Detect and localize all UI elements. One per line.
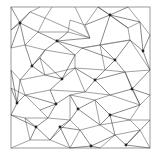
spoke-edge	[20, 23, 38, 32]
cell-edge	[125, 70, 150, 72]
cell-edge	[100, 45, 105, 70]
spoke-edge	[125, 72, 132, 89]
spoke-edge	[100, 15, 110, 45]
cell-edge	[130, 120, 140, 130]
cell-edge	[70, 95, 95, 100]
cell-edge	[75, 68, 85, 92]
mesh-diagram	[0, 0, 157, 157]
cell-edge	[50, 120, 70, 140]
spoke-edge	[57, 32, 68, 41]
cell-edge	[45, 50, 75, 55]
graph-node	[19, 22, 22, 25]
graph-node	[35, 126, 38, 129]
spoke-edge	[11, 103, 17, 115]
spoke-edge	[143, 35, 150, 51]
spoke-edge	[110, 7, 128, 15]
cell-edge	[68, 20, 70, 32]
spoke-edge	[95, 80, 110, 95]
cell-edge	[30, 7, 40, 12]
spoke-edge	[50, 79, 62, 90]
spoke-edge	[50, 127, 60, 140]
spoke-edge	[20, 12, 30, 23]
spoke-edge	[115, 135, 126, 145]
graph-node	[56, 40, 59, 43]
cell-edge	[25, 45, 45, 50]
graph-node	[125, 144, 128, 147]
cell-edge	[30, 12, 45, 18]
spoke-edge	[98, 7, 110, 15]
spoke-edge	[60, 120, 70, 127]
cell-edge	[48, 118, 70, 120]
cell-edge	[128, 28, 130, 40]
graph-node	[109, 14, 112, 17]
cell-edge	[95, 100, 100, 125]
spoke-edge	[20, 23, 25, 45]
spoke-edge	[17, 95, 25, 103]
spoke-edge	[48, 104, 56, 118]
spoke-edge	[105, 60, 115, 70]
spoke-edge	[36, 127, 50, 140]
cell-edge	[85, 92, 110, 95]
spoke-edge	[30, 127, 36, 140]
cell-edge	[128, 22, 140, 28]
spoke-edge	[80, 130, 91, 146]
graph-node	[90, 145, 93, 148]
voronoi-cell-edges	[11, 7, 150, 148]
graph-node	[31, 65, 34, 68]
cell-edge	[140, 130, 150, 148]
spoke-edge	[40, 104, 56, 110]
spoke-edge	[110, 115, 130, 120]
cell-edge	[11, 140, 30, 148]
spoke-edge	[95, 72, 125, 80]
spoke-edge	[57, 41, 75, 55]
spoke-edge	[36, 118, 48, 127]
cell-edge	[140, 22, 150, 35]
cell-edge	[11, 115, 25, 118]
spoke-edge	[11, 70, 17, 103]
spoke-edge	[115, 40, 130, 60]
graph-node	[114, 59, 117, 62]
spoke-edge	[115, 60, 125, 72]
spoke-edge	[78, 100, 95, 109]
spoke-edge	[70, 95, 78, 109]
cell-edge	[82, 45, 100, 48]
graph-node	[55, 103, 58, 106]
spoke-edge	[82, 48, 115, 60]
spoke-edge	[56, 95, 70, 104]
cell-edge	[45, 7, 52, 18]
spoke-edge	[140, 22, 143, 51]
cell-edge	[100, 40, 130, 45]
spoke-edge	[38, 32, 57, 41]
cell-edge	[130, 105, 140, 120]
cell-edge	[75, 68, 105, 70]
cell-edge	[130, 40, 150, 70]
spoke-edge	[32, 50, 45, 66]
cell-edge	[70, 130, 80, 148]
spoke-edge	[78, 109, 100, 125]
cell-edge	[11, 45, 25, 48]
cell-edge	[95, 95, 110, 100]
spoke-edge	[25, 45, 32, 66]
spoke-edge	[132, 70, 150, 89]
spoke-edge	[62, 55, 75, 79]
spoke-edge	[110, 105, 140, 115]
spoke-edge	[45, 75, 62, 79]
spoke-edge	[11, 7, 20, 23]
spoke-edge	[110, 89, 132, 95]
spoke-edge	[70, 109, 78, 120]
spoke-edge	[91, 135, 115, 146]
cell-edge	[80, 125, 100, 130]
graph-node	[142, 50, 145, 53]
graph-node	[77, 108, 80, 111]
cell-edge	[70, 92, 85, 95]
spoke-edge	[57, 38, 90, 41]
cell-edge	[38, 18, 45, 32]
graph-node	[61, 78, 64, 81]
cell-edge	[140, 95, 150, 105]
spoke-edge	[45, 41, 57, 50]
spoke-edge	[50, 90, 56, 104]
spoke-edge	[11, 115, 36, 127]
cell-edge	[50, 90, 85, 92]
graph-node	[94, 79, 97, 82]
cell-edge	[25, 90, 50, 95]
